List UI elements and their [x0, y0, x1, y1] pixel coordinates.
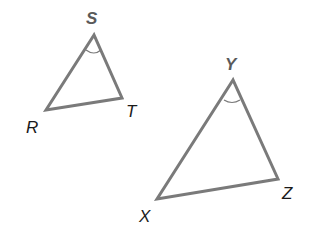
triangle-rst: S R T [26, 9, 138, 137]
vertex-label-z: Z [281, 184, 293, 203]
vertex-label-x: X [138, 207, 151, 226]
similar-triangles-diagram: S R T Y X Z [0, 0, 315, 242]
vertex-label-s: S [86, 9, 98, 28]
vertex-label-r: R [26, 118, 38, 137]
vertex-label-t: T [126, 102, 138, 121]
triangle-xyz: Y X Z [138, 55, 293, 226]
vertex-label-y: Y [225, 55, 238, 74]
triangle-xyz-shape [157, 80, 278, 199]
angle-mark-y [224, 100, 240, 103]
triangle-rst-shape [46, 35, 122, 110]
angle-mark-s [86, 50, 101, 53]
